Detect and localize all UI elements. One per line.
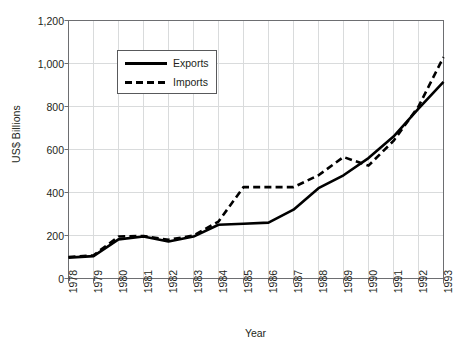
x-tick-label: 1992 xyxy=(417,269,428,292)
chart-container: US$ Billions 02004006008001,0001,200 197… xyxy=(0,0,461,348)
legend-line-solid-icon xyxy=(125,62,167,65)
x-tick-label: 1979 xyxy=(92,269,103,292)
x-tick-label: 1989 xyxy=(342,269,353,292)
x-tick-label: 1983 xyxy=(192,269,203,292)
x-tick-label: 1985 xyxy=(242,269,253,292)
x-tick-label: 1978 xyxy=(67,269,78,292)
x-tick-label: 1981 xyxy=(142,269,153,292)
legend-label-exports: Exports xyxy=(173,56,209,70)
x-tick-label: 1993 xyxy=(442,269,453,292)
x-tick-label: 1991 xyxy=(392,269,403,292)
x-axis-title: Year xyxy=(68,327,443,339)
x-tick-label: 1980 xyxy=(117,269,128,292)
series-line-exports xyxy=(69,82,444,258)
legend-label-imports: Imports xyxy=(173,75,208,89)
x-tick-label: 1988 xyxy=(317,269,328,292)
chart-legend: Exports Imports xyxy=(117,50,217,94)
legend-item-imports: Imports xyxy=(125,75,215,89)
x-tick-label: 1984 xyxy=(217,269,228,292)
chart-plot-area xyxy=(0,0,461,348)
x-tick-label: 1986 xyxy=(267,269,278,292)
legend-item-exports: Exports xyxy=(125,56,215,70)
x-tick-label: 1982 xyxy=(167,269,178,292)
legend-line-dashed-icon xyxy=(125,81,167,84)
x-tick-label: 1987 xyxy=(292,269,303,292)
x-tick-label: 1990 xyxy=(367,269,378,292)
